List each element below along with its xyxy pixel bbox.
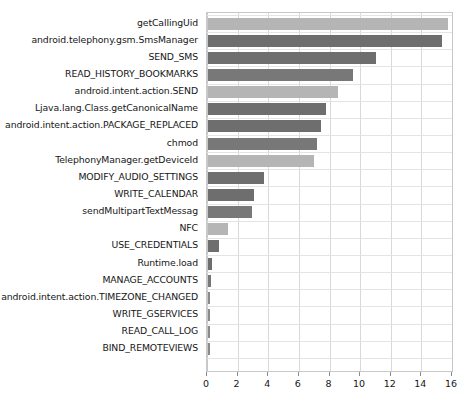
y-axis-category-labels: getCallingUidandroid.telephony.gsm.SmsMa… (0, 12, 202, 372)
gridline-horizontal (207, 186, 452, 187)
y-axis-label: Runtime.load (138, 256, 198, 270)
gridline-horizontal (207, 169, 452, 170)
x-axis-tick-mark (237, 372, 238, 376)
y-axis-label: SEND_SMS (148, 50, 198, 64)
bar (208, 223, 228, 235)
gridline-horizontal (207, 358, 452, 359)
x-axis-tick-label: 14 (405, 378, 435, 389)
gridline-horizontal (207, 255, 452, 256)
gridline-horizontal (207, 204, 452, 205)
x-axis-tick-label: 2 (222, 378, 252, 389)
x-axis-tick-mark (451, 372, 452, 376)
y-axis-label: NFC (180, 221, 199, 235)
x-axis-tick-label: 0 (191, 378, 221, 389)
x-axis-tick-mark (359, 372, 360, 376)
bar (208, 103, 326, 115)
gridline-horizontal (207, 341, 452, 342)
x-axis-tick-mark (390, 372, 391, 376)
bar (208, 52, 376, 64)
y-axis-label: android.telephony.gsm.SmsManager (31, 33, 198, 47)
bar (208, 292, 210, 304)
y-axis-label: READ_HISTORY_BOOKMARKS (65, 67, 198, 81)
gridline-horizontal (207, 66, 452, 67)
y-axis-label: WRITE_CALENDAR (114, 187, 198, 201)
y-axis-label: WRITE_GSERVICES (113, 307, 198, 321)
gridline-horizontal (207, 84, 452, 85)
bar (208, 69, 353, 81)
x-axis-tick-mark (329, 372, 330, 376)
x-axis-tick-label: 12 (375, 378, 405, 389)
y-axis-label: MANAGE_ACCOUNTS (102, 273, 198, 287)
gridline-horizontal (207, 324, 452, 325)
y-axis-label: Ljava.lang.Class.getCanonicalName (35, 101, 198, 115)
gridline-horizontal (207, 15, 452, 16)
bar (208, 343, 210, 355)
bar (208, 206, 252, 218)
y-axis-label: TelephonyManager.getDeviceId (55, 153, 198, 167)
gridline-horizontal (207, 238, 452, 239)
y-axis-label: android.intent.action.PACKAGE_REPLACED (5, 118, 198, 132)
y-axis-label: android.intent.action.TIMEZONE_CHANGED (1, 290, 198, 304)
bar (208, 275, 211, 287)
x-axis-tick-label: 6 (283, 378, 313, 389)
gridline-horizontal (207, 152, 452, 153)
y-axis-label: MODIFY_AUDIO_SETTINGS (78, 170, 198, 184)
bar (208, 138, 317, 150)
gridline-horizontal (207, 101, 452, 102)
bar (208, 86, 338, 98)
bar (208, 326, 210, 338)
gridline-horizontal (207, 221, 452, 222)
x-axis-tick-mark (420, 372, 421, 376)
bar (208, 189, 254, 201)
bar (208, 258, 212, 270)
bar (208, 35, 442, 47)
bar-chart: getCallingUidandroid.telephony.gsm.SmsMa… (0, 0, 464, 411)
bar (208, 309, 210, 321)
gridline-vertical (452, 13, 453, 371)
gridline-horizontal (207, 306, 452, 307)
plot-area (206, 12, 453, 372)
x-axis-tick-mark (206, 372, 207, 376)
gridline-horizontal (207, 289, 452, 290)
x-axis-tick-label: 16 (436, 378, 464, 389)
x-axis-tick-mark (267, 372, 268, 376)
x-axis-tick-label: 10 (344, 378, 374, 389)
x-axis-tick-label: 4 (252, 378, 282, 389)
bar (208, 172, 264, 184)
y-axis-label: sendMultipartTextMessag (82, 204, 198, 218)
x-axis-tick-label: 8 (314, 378, 344, 389)
y-axis-label: android.intent.action.SEND (75, 84, 198, 98)
y-axis-label: READ_CALL_LOG (122, 324, 198, 338)
x-axis: 0246810121416 (206, 372, 453, 402)
y-axis-label: USE_CREDENTIALS (112, 238, 198, 252)
gridline-horizontal (207, 32, 452, 33)
x-axis-tick-mark (298, 372, 299, 376)
bar (208, 155, 314, 167)
gridline-horizontal (207, 49, 452, 50)
y-axis-label: BIND_REMOTEVIEWS (102, 341, 198, 355)
y-axis-label: chmod (167, 136, 198, 150)
y-axis-label: getCallingUid (137, 16, 198, 30)
gridline-horizontal (207, 118, 452, 119)
gridline-horizontal (207, 272, 452, 273)
gridline-horizontal (207, 135, 452, 136)
bar (208, 18, 448, 30)
bar (208, 240, 219, 252)
bar (208, 120, 321, 132)
